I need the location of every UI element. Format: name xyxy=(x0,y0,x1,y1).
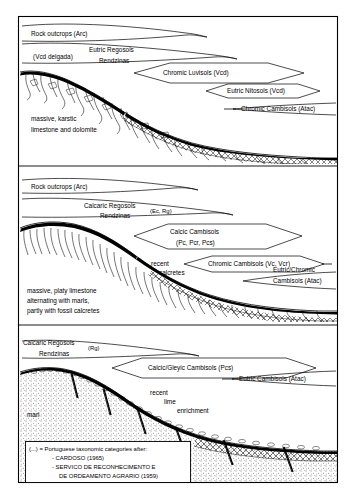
label-calcaric-regosols-code-bottom: (Rg) xyxy=(88,345,99,351)
crest-cap-middle xyxy=(20,222,137,259)
label-eutric-chromic-cambisols-line1: Eutric/Chromic xyxy=(273,266,316,273)
label-calcic-cambisols-middle: Calcic Cambisols xyxy=(170,228,219,235)
legend-line-2: - CARDOSO (1965) xyxy=(52,455,104,461)
label-eutric-cambisols-bottom: Eutric Cambisols (Atac) xyxy=(239,375,306,383)
label-substrate-middle-line3: partly with fossil calcretes xyxy=(27,307,99,315)
label-rendzinas-bottom: Rendzinas xyxy=(39,350,69,357)
label-substrate-middle-line2: alternating with marls, xyxy=(27,297,89,305)
label-recent-calcretes-line2: calcretes xyxy=(159,269,185,276)
label-substrate-bottom-line1: marl xyxy=(27,411,39,418)
label-calcaric-regosols-code-middle: (Ec, Rg) xyxy=(150,208,172,214)
label-calcic-gleyic-cambisols-bottom: Calcic/Gleyic Cambisols (Pcs) xyxy=(148,364,233,372)
label-vcd-delgada-top: (Vcd delgada) xyxy=(33,53,73,61)
label-eutric-nitosols-top: Eutric Nitosols (Vcd) xyxy=(227,87,285,95)
legend-line-4: DE ORDEAMENTO AGRARIO (1959) xyxy=(59,473,158,479)
legend-line-3: - SERVICO DE RECONHECIMENTO E xyxy=(52,464,156,470)
label-recent-lime-line3: enrichment xyxy=(177,407,209,414)
label-calcaric-regosols-bottom: Calcaric Regosols xyxy=(23,339,75,347)
label-recent-lime-line1: recent xyxy=(150,389,168,396)
label-calcaric-regosols-middle: Calcaric Regosols xyxy=(84,202,136,210)
label-eutric-chromic-cambisols-line2: Cambisols (Atac) xyxy=(273,277,322,285)
crest-cap-top xyxy=(20,71,125,115)
panel-top xyxy=(20,24,337,166)
label-chromic-cambisols-top: Chromic Cambisols (Atac) xyxy=(241,105,315,113)
label-substrate-middle-line1: massive, platy limestone xyxy=(27,287,97,295)
label-rendzinas-middle: Rendzinas xyxy=(100,212,130,219)
label-calcic-cambisols-code-middle: (Pc, Pcr, Pcs) xyxy=(176,239,215,247)
label-rock-outcrops-top: Rock outcrops (Arc) xyxy=(31,30,87,38)
label-chromic-luvisols-top: Chromic Luvisols (Vcd) xyxy=(163,69,229,77)
legend-line-1: (...) = Portuguese taxonomic categories … xyxy=(29,446,147,452)
label-substrate-top-line1: massive, karstic xyxy=(31,115,77,122)
label-recent-calcretes-line1: recent xyxy=(151,260,169,267)
label-eutric-regosols-top: Eutric Regosols xyxy=(89,46,134,54)
label-rendzinas-top: Rendzinas xyxy=(99,57,129,64)
label-recent-lime-line2: lime xyxy=(164,398,176,405)
label-rock-outcrops-middle: Rock outcrops (Arc) xyxy=(31,183,87,191)
geological-cross-section-figure: Rock outcrops (Arc) (Vcd delgada) Eutric… xyxy=(0,0,356,498)
label-substrate-top-line2: limestone and dolomite xyxy=(31,126,97,133)
